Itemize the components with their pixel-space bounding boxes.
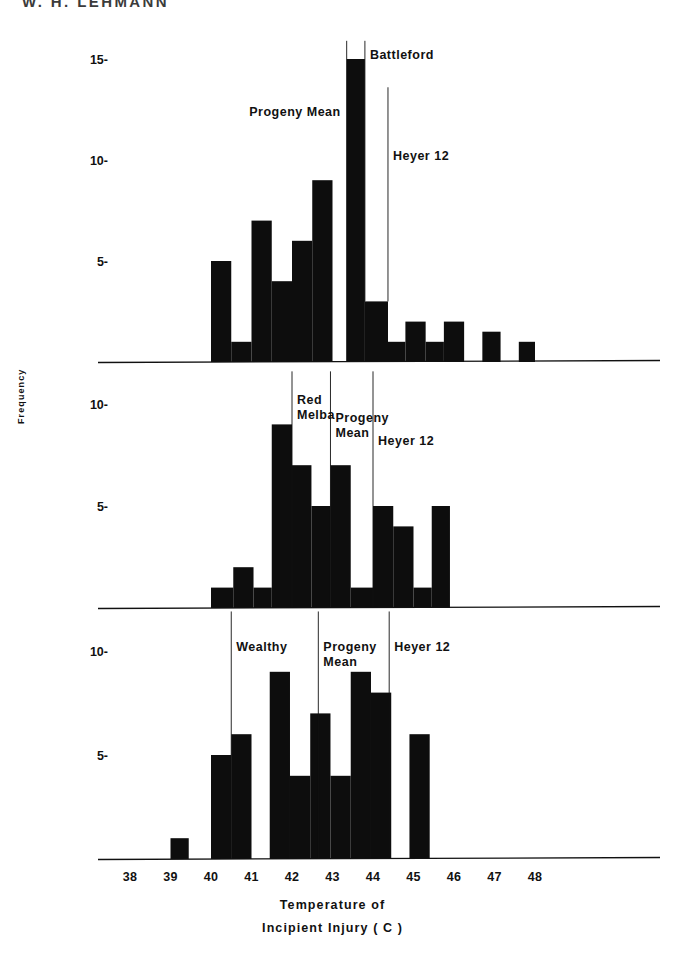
- histogram-plot: Progeny MeanBattlefordHeyer 125-10-15-Re…: [0, 0, 674, 958]
- histogram-bar: [231, 342, 251, 362]
- histogram-bar: [444, 322, 464, 362]
- histogram-bar: [482, 332, 500, 362]
- x-axis-caption: Temperature of: [280, 898, 385, 912]
- marker-label: Progeny: [335, 411, 389, 425]
- x-tick-label: 40: [204, 870, 219, 884]
- histogram-bar: [171, 838, 189, 859]
- histogram-bar: [365, 301, 388, 362]
- marker-label: Battleford: [370, 48, 434, 62]
- marker-label: Heyer 12: [393, 149, 449, 163]
- histogram-bar: [426, 342, 444, 362]
- histogram-bar: [252, 221, 272, 362]
- histogram-bar: [290, 776, 310, 859]
- histogram-bar: [270, 672, 290, 859]
- running-head: W. H. LEHMANN: [22, 0, 169, 10]
- y-tick-label: 10-: [90, 154, 108, 168]
- y-tick-label: 5-: [97, 500, 108, 514]
- y-axis-label: Frequency: [16, 294, 26, 424]
- histogram-bar: [310, 713, 330, 859]
- histogram-bar: [351, 588, 373, 608]
- x-tick-label: 47: [487, 870, 502, 884]
- histogram-bar: [432, 506, 450, 608]
- y-tick-label: 10-: [90, 398, 108, 412]
- histogram-bar: [388, 342, 405, 362]
- marker-label: Melba: [297, 408, 335, 422]
- histogram-bar: [312, 180, 332, 362]
- marker-label: Wealthy: [236, 640, 287, 654]
- marker-label: Mean: [335, 426, 369, 440]
- histogram-bar: [292, 465, 311, 608]
- histogram-bar: [272, 424, 292, 608]
- histogram-bar: [211, 261, 231, 362]
- histogram-bar: [330, 776, 350, 859]
- x-tick-label: 41: [244, 870, 259, 884]
- x-axis-caption: Incipient Injury ( C ): [262, 921, 403, 935]
- histogram-bar: [211, 588, 233, 608]
- marker-label: Progeny: [323, 640, 377, 654]
- histogram-bar: [311, 506, 330, 608]
- histogram-bar: [371, 693, 391, 859]
- y-tick-label: 5-: [97, 255, 108, 269]
- histogram-bar: [351, 672, 371, 859]
- histogram-bar: [292, 241, 312, 362]
- x-tick-label: 45: [406, 870, 421, 884]
- x-tick-label: 46: [447, 870, 462, 884]
- x-tick-label: 48: [528, 870, 543, 884]
- panel-wealthy-panel: WealthyProgenyMeanHeyer 125-10-: [90, 611, 660, 859]
- histogram-bar: [373, 506, 393, 608]
- panel-battleford-panel: Progeny MeanBattlefordHeyer 125-10-15-: [90, 41, 660, 363]
- histogram-bar: [393, 526, 413, 608]
- histogram-bar: [414, 588, 432, 608]
- marker-label: Progeny Mean: [249, 105, 340, 119]
- marker-label: Red: [297, 393, 322, 407]
- x-tick-label: 43: [325, 870, 340, 884]
- histogram-bar: [272, 281, 292, 362]
- marker-label: Heyer 12: [378, 434, 434, 448]
- x-tick-label: 38: [123, 870, 138, 884]
- histogram-bar: [405, 322, 425, 362]
- marker-label: Heyer 12: [394, 640, 450, 654]
- figure-root: W. H. LEHMANN Frequency Progeny MeanBatt…: [0, 0, 674, 958]
- y-tick-label: 15-: [90, 53, 108, 67]
- x-axis-layer: 3839404142434445464748Temperature ofInci…: [123, 870, 543, 935]
- x-tick-label: 44: [366, 870, 381, 884]
- panels-layer: Progeny MeanBattlefordHeyer 125-10-15-Re…: [90, 41, 660, 860]
- histogram-bar: [211, 755, 231, 859]
- histogram-bar: [519, 342, 535, 362]
- marker-label: Mean: [323, 655, 357, 669]
- histogram-bar: [347, 59, 365, 362]
- x-tick-label: 42: [285, 870, 300, 884]
- y-tick-label: 10-: [90, 645, 108, 659]
- histogram-bar: [330, 465, 350, 608]
- histogram-bar: [231, 734, 251, 859]
- histogram-bar: [409, 734, 429, 859]
- panel-red-melba-panel: RedMelbaProgenyMeanHeyer 125-10-: [90, 371, 660, 608]
- y-tick-label: 5-: [97, 749, 108, 763]
- x-tick-label: 39: [163, 870, 178, 884]
- histogram-bar: [233, 567, 253, 608]
- histogram-bar: [254, 588, 272, 608]
